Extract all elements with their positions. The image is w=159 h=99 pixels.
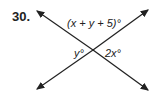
angle-label-left: y°	[74, 47, 84, 59]
angle-diagram: 30. (x + y + 5)° y° 2x°	[0, 0, 159, 99]
ray-upper-right-arrow-icon	[93, 10, 148, 50]
angle-label-top: (x + y + 5)°	[67, 17, 121, 29]
angle-label-right: 2x°	[105, 47, 121, 59]
ray-lower-left-arrow-icon	[37, 50, 93, 89]
